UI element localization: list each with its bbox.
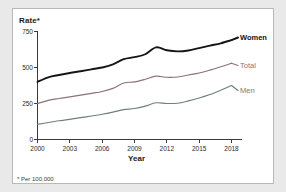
x-tick-label-2015: 2015: [187, 145, 211, 152]
x-tick-label-2003: 2003: [58, 145, 82, 152]
plot-frame: Rate* Year 0250500750 200020032006200920…: [0, 0, 286, 192]
leader-line-women: [232, 38, 239, 41]
x-tick-label-2018: 2018: [220, 145, 244, 152]
axes-group: [34, 31, 242, 144]
series-line-men: [38, 86, 232, 125]
footnote: * Per 100,000: [17, 176, 54, 182]
series-label-total: Total: [240, 61, 256, 70]
chart-screenshot: Rate* Year 0250500750 200020032006200920…: [0, 0, 286, 192]
series-label-women: Women: [240, 33, 267, 42]
x-tick-label-2000: 2000: [26, 145, 50, 152]
leader-line-total: [232, 63, 239, 65]
legend-leader-lines: [232, 38, 239, 91]
y-tick-label-250: 250: [15, 100, 33, 107]
y-axis-title: Rate*: [19, 16, 40, 25]
series-label-men: Men: [240, 86, 255, 95]
leader-line-men: [232, 86, 239, 91]
x-tick-label-2012: 2012: [155, 145, 179, 152]
x-axis-title: Year: [128, 154, 145, 163]
line-chart-svg: [0, 0, 286, 192]
x-tick-label-2009: 2009: [123, 145, 147, 152]
x-tick-label-2006: 2006: [90, 145, 114, 152]
y-tick-label-0: 0: [15, 136, 33, 143]
y-tick-label-500: 500: [15, 64, 33, 71]
y-tick-label-750: 750: [15, 28, 33, 35]
series-line-women: [38, 40, 232, 82]
series-group: [38, 40, 232, 124]
